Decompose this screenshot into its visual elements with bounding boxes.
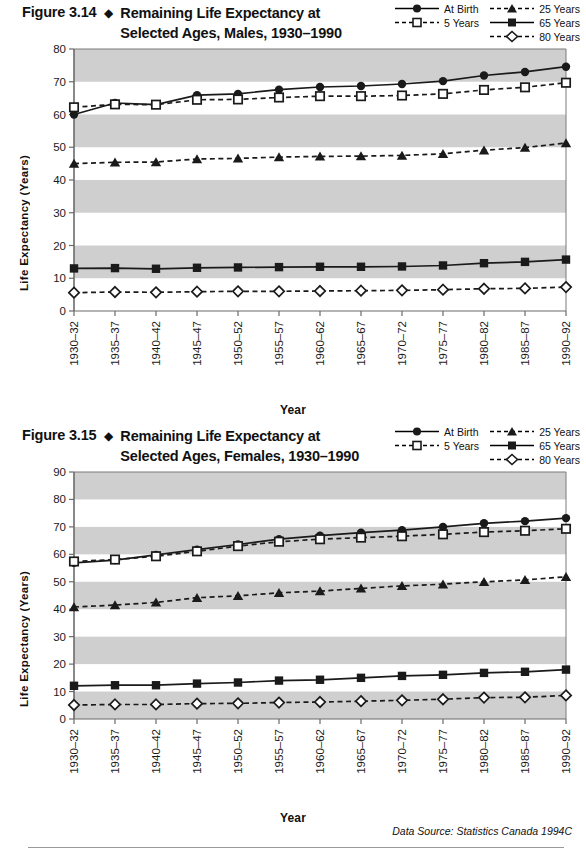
diamond-bullet-icon: ◆: [104, 5, 113, 21]
svg-text:1960–62: 1960–62: [314, 321, 326, 366]
svg-text:1970–72: 1970–72: [396, 321, 408, 366]
legend-label-5-years: 5 Years: [444, 440, 479, 452]
data-source-note: Data Source: Statistics Canada 1994C: [0, 825, 586, 837]
figure-3-15-y-axis-label: Life Expectancy (Years): [14, 466, 34, 811]
legend-item-80-years: 80 Years: [489, 30, 580, 43]
svg-text:60: 60: [53, 549, 66, 561]
figure-3-14-title-line2: Selected Ages, Males, 1930–1990: [120, 24, 341, 44]
figure-3-15-title-line1: Remaining Life Expectancy at: [120, 427, 359, 447]
figure-3-14-plot-wrap: 010203040506070801930–321935–371940–4219…: [34, 43, 586, 403]
figure-3-15-header: Figure 3.15 ◆ Remaining Life Expectancy …: [0, 423, 586, 466]
legend-key-at-birth-icon: [394, 425, 440, 438]
svg-text:1990–92: 1990–92: [560, 321, 572, 366]
svg-text:1975–77: 1975–77: [437, 321, 449, 366]
legend-key-80-years-icon: [489, 453, 535, 466]
svg-text:1990–92: 1990–92: [560, 729, 572, 774]
svg-text:70: 70: [53, 76, 66, 88]
svg-text:1980–82: 1980–82: [478, 321, 490, 366]
legend-label-25-years: 25 Years: [539, 3, 580, 15]
legend-label-at-birth: At Birth: [444, 426, 478, 438]
svg-text:50: 50: [53, 141, 66, 153]
svg-text:1945–47: 1945–47: [191, 321, 203, 366]
svg-text:20: 20: [53, 240, 66, 252]
figure-3-14-number: Figure 3.14: [22, 4, 96, 20]
svg-text:1955–57: 1955–57: [273, 729, 285, 774]
svg-text:60: 60: [53, 109, 66, 121]
svg-text:30: 30: [53, 631, 66, 643]
legend-item-at-birth: At Birth: [394, 2, 479, 15]
svg-text:70: 70: [53, 521, 66, 533]
svg-text:1940–42: 1940–42: [150, 321, 162, 366]
svg-text:1975–77: 1975–77: [437, 729, 449, 774]
legend-label-80-years: 80 Years: [539, 454, 580, 466]
figure-3-14-chart-body: Life Expectancy (Years) 0102030405060708…: [0, 43, 586, 403]
legend-item-5-years: 5 Years: [394, 439, 479, 452]
svg-text:80: 80: [53, 43, 66, 55]
svg-text:1930–32: 1930–32: [68, 729, 80, 774]
figure-3-15-title-wrap: Figure 3.15 ◆ Remaining Life Expectancy …: [22, 423, 359, 466]
legend-key-25-years-icon: [489, 425, 535, 438]
legend-key-5-years-icon: [394, 439, 440, 452]
figure-3-15-number: Figure 3.15: [22, 427, 96, 443]
svg-text:40: 40: [53, 603, 66, 615]
svg-text:1930–32: 1930–32: [68, 321, 80, 366]
figure-3-14-title-wrap: Figure 3.14 ◆ Remaining Life Expectancy …: [22, 0, 342, 43]
svg-text:1985–87: 1985–87: [519, 729, 531, 774]
svg-text:0: 0: [60, 305, 66, 317]
svg-text:1935–37: 1935–37: [109, 321, 121, 366]
figure-3-15-chart-body: Life Expectancy (Years) 0102030405060708…: [0, 466, 586, 811]
figure-3-14-header: Figure 3.14 ◆ Remaining Life Expectancy …: [0, 0, 586, 43]
figure-3-15-plot: 01020304050607080901930–321935–371940–42…: [34, 466, 574, 811]
svg-text:1965–67: 1965–67: [355, 729, 367, 774]
figure-3-15-block: Figure 3.15 ◆ Remaining Life Expectancy …: [0, 423, 586, 848]
svg-text:10: 10: [53, 272, 66, 284]
svg-text:1950–52: 1950–52: [232, 321, 244, 366]
diamond-bullet-icon: ◆: [104, 428, 113, 444]
legend-label-25-years: 25 Years: [539, 426, 580, 438]
svg-text:80: 80: [53, 494, 66, 506]
svg-text:1950–52: 1950–52: [232, 729, 244, 774]
legend-label-80-years: 80 Years: [539, 31, 580, 43]
figure-3-14-plot: 010203040506070801930–321935–371940–4219…: [34, 43, 574, 403]
svg-text:1940–42: 1940–42: [150, 729, 162, 774]
legend-key-65-years-icon: [489, 439, 535, 452]
figure-3-14-legend: At Birth 25 Years 5 Years: [394, 0, 580, 43]
figure-3-15-x-axis-label: Year: [0, 811, 586, 825]
svg-text:30: 30: [53, 207, 66, 219]
figure-3-14-y-axis-label: Life Expectancy (Years): [14, 43, 34, 403]
svg-text:0: 0: [60, 713, 66, 725]
svg-text:1945–47: 1945–47: [191, 729, 203, 774]
svg-text:20: 20: [53, 658, 66, 670]
figure-3-14-x-axis-label: Year: [0, 403, 586, 417]
legend-item-25-years: 25 Years: [489, 425, 580, 438]
svg-text:90: 90: [53, 466, 66, 478]
figure-3-15-plot-wrap: 01020304050607080901930–321935–371940–42…: [34, 466, 586, 811]
legend-key-25-years-icon: [489, 2, 535, 15]
legend-item-65-years: 65 Years: [489, 439, 580, 452]
legend-key-5-years-icon: [394, 16, 440, 29]
legend-label-65-years: 65 Years: [539, 17, 580, 29]
svg-text:1970–72: 1970–72: [396, 729, 408, 774]
legend-key-at-birth-icon: [394, 2, 440, 15]
legend-key-65-years-icon: [489, 16, 535, 29]
figure-3-15-legend: At Birth 25 Years 5 Years: [394, 423, 580, 466]
figure-3-15-title: Remaining Life Expectancy at Selected Ag…: [120, 427, 359, 466]
svg-text:1985–87: 1985–87: [519, 321, 531, 366]
legend-label-5-years: 5 Years: [444, 17, 479, 29]
svg-text:1980–82: 1980–82: [478, 729, 490, 774]
legend-item-65-years: 65 Years: [489, 16, 580, 29]
svg-text:40: 40: [53, 174, 66, 186]
svg-text:50: 50: [53, 576, 66, 588]
legend-label-65-years: 65 Years: [539, 440, 580, 452]
legend-item-at-birth: At Birth: [394, 425, 479, 438]
figure-3-14-title-line1: Remaining Life Expectancy at: [120, 4, 341, 24]
svg-text:1960–62: 1960–62: [314, 729, 326, 774]
figure-3-14-title: Remaining Life Expectancy at Selected Ag…: [120, 4, 341, 43]
figure-3-14-block: Figure 3.14 ◆ Remaining Life Expectancy …: [0, 0, 586, 417]
legend-key-80-years-icon: [489, 30, 535, 43]
svg-text:10: 10: [53, 686, 66, 698]
legend-item-5-years: 5 Years: [394, 16, 479, 29]
legend-item-25-years: 25 Years: [489, 2, 580, 15]
legend-label-at-birth: At Birth: [444, 3, 478, 15]
svg-text:1955–57: 1955–57: [273, 321, 285, 366]
